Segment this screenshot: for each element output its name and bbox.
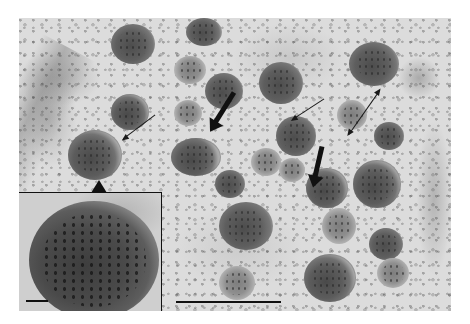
vesicle [353, 160, 401, 208]
vesicle [68, 130, 122, 180]
vesicle [349, 42, 399, 86]
vesicle [322, 208, 356, 244]
vesicle [259, 62, 303, 104]
enlarged-vesicle [29, 201, 159, 311]
vesicle [174, 56, 206, 84]
vesicle [174, 100, 202, 126]
vesicle [186, 18, 222, 46]
inset-enlarged-vesicle [19, 192, 162, 311]
vesicle [369, 228, 403, 260]
vesicle [304, 254, 356, 302]
vesicle [377, 258, 409, 288]
scale-bar [176, 301, 281, 303]
vesicle [219, 202, 273, 250]
vesicle [171, 138, 221, 176]
vesicle [215, 170, 245, 198]
vesicle [251, 148, 281, 176]
vesicle [111, 94, 149, 130]
vesicle [111, 24, 155, 64]
vesicle [279, 158, 305, 182]
vesicle [219, 266, 255, 300]
vesicle [374, 122, 404, 150]
vesicle [276, 116, 316, 156]
inset-scale-bar [26, 300, 48, 302]
